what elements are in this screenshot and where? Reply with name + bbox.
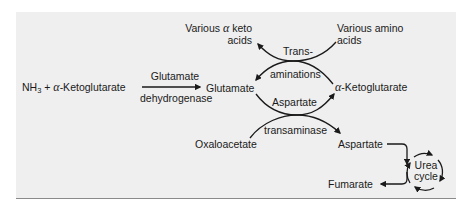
node-fumarate: Fumarate xyxy=(328,178,373,190)
label-text: acids xyxy=(337,34,362,46)
label-text: Various xyxy=(185,22,223,34)
label-text: NH xyxy=(22,81,37,93)
urea-cycle-arc-top xyxy=(414,153,432,157)
enzyme-trans-bottom: aminations xyxy=(270,68,321,80)
enzyme-ast-bottom: transaminase xyxy=(264,124,327,136)
urea-to-fumarate-arrow xyxy=(381,172,407,184)
label-text: acids xyxy=(227,34,252,46)
enzyme-ast-top: Aspartate xyxy=(272,96,317,108)
enzyme-gdh-top: Glutamate xyxy=(142,70,208,82)
node-aspartate: Aspartate xyxy=(338,138,383,150)
label-text: keto xyxy=(229,22,252,34)
aspartate-to-urea-arrow xyxy=(387,144,407,164)
label-text: + xyxy=(41,81,53,93)
enzyme-gdh-bottom: dehydrogenase xyxy=(140,92,210,104)
label-text: Various amino xyxy=(337,22,403,34)
node-oxaloacetate: Oxaloacetate xyxy=(195,138,257,150)
node-various-amino-acids: Various amino acids xyxy=(337,22,403,46)
node-nh3-aketoglutarate: NH3 + α-Ketoglutarate xyxy=(22,81,126,93)
urea-cycle-arc-bottom xyxy=(415,187,434,190)
node-aketoglutarate: α-Ketoglutarate xyxy=(335,81,407,93)
node-urea-cycle: Urea cycle xyxy=(411,160,441,182)
label-text: -Ketoglutarate xyxy=(60,81,126,93)
label-text: cycle xyxy=(414,170,438,182)
node-glutamate: Glutamate xyxy=(206,82,254,94)
enzyme-trans-top: Trans- xyxy=(283,45,313,57)
label-text: -Ketoglutarate xyxy=(341,81,407,93)
node-various-keto-acids: Various α keto acids xyxy=(178,22,252,46)
